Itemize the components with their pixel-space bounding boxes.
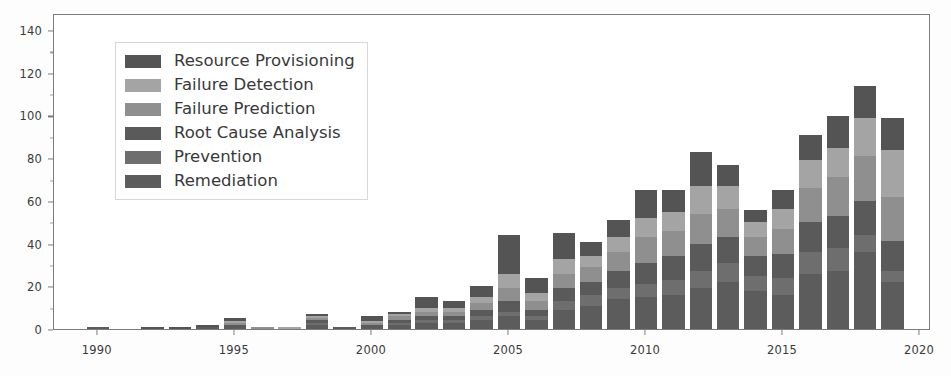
bar-segment-resource-provisioning[interactable] [607,220,629,237]
bar-segment-remediation[interactable] [87,327,109,329]
bar-segment-failure-prediction[interactable] [662,231,684,257]
bar-segment-resource-provisioning[interactable] [799,135,821,161]
bar-segment-failure-prediction[interactable] [553,274,575,289]
bar-segment-failure-detection[interactable] [635,218,657,237]
bar-2002[interactable] [415,297,437,329]
legend-item[interactable]: Failure Detection [125,74,355,96]
bar-segment-root-cause-analysis[interactable] [881,241,903,271]
bar-segment-remediation[interactable] [662,295,684,329]
bar-segment-resource-provisioning[interactable] [141,327,163,329]
bar-segment-remediation[interactable] [799,274,821,330]
legend-item[interactable]: Root Cause Analysis [125,122,355,144]
bar-segment-remediation[interactable] [854,252,876,329]
bar-2013[interactable] [717,165,739,329]
bar-segment-remediation[interactable] [333,327,355,329]
bar-segment-root-cause-analysis[interactable] [690,244,712,272]
bar-segment-prevention[interactable] [827,248,849,271]
bar-segment-failure-detection[interactable] [662,212,684,231]
bar-segment-failure-detection[interactable] [690,186,712,214]
bar-segment-failure-prediction[interactable] [635,237,657,263]
bar-segment-remediation[interactable] [498,316,520,329]
bar-segment-remediation[interactable] [690,288,712,329]
bar-segment-failure-detection[interactable] [772,209,794,228]
bar-segment-prevention[interactable] [635,284,657,297]
bar-segment-root-cause-analysis[interactable] [717,237,739,263]
bar-segment-resource-provisioning[interactable] [854,86,876,118]
bar-2009[interactable] [607,220,629,329]
bar-segment-resource-provisioning[interactable] [525,278,547,293]
bar-segment-remediation[interactable] [388,325,410,329]
bar-segment-resource-provisioning[interactable] [881,118,903,150]
bar-1990[interactable] [87,327,109,329]
bar-segment-prevention[interactable] [553,301,575,310]
bar-segment-prevention[interactable] [662,280,684,295]
legend-item[interactable]: Resource Provisioning [125,50,355,72]
bar-1998[interactable] [306,314,328,329]
bar-segment-resource-provisioning[interactable] [635,190,657,218]
bar-segment-remediation[interactable] [580,306,602,329]
bar-segment-prevention[interactable] [772,278,794,295]
bar-segment-root-cause-analysis[interactable] [799,222,821,252]
bar-segment-remediation[interactable] [361,327,383,329]
bar-segment-resource-provisioning[interactable] [498,235,520,273]
bar-1999[interactable] [333,327,355,329]
bar-segment-resource-provisioning[interactable] [744,210,766,223]
bar-1996[interactable] [251,327,273,329]
bar-segment-failure-detection[interactable] [553,259,575,274]
bar-segment-remediation[interactable] [881,282,903,329]
legend-item[interactable]: Prevention [125,146,355,168]
bar-segment-failure-prediction[interactable] [744,237,766,256]
bar-2005[interactable] [498,235,520,329]
bar-segment-failure-prediction[interactable] [251,327,273,329]
bar-1994[interactable] [196,325,218,329]
bar-segment-failure-detection[interactable] [827,148,849,178]
bar-2016[interactable] [799,135,821,329]
bar-segment-failure-prediction[interactable] [498,288,520,301]
bar-segment-prevention[interactable] [717,263,739,282]
bar-segment-failure-detection[interactable] [799,160,821,188]
bar-segment-failure-detection[interactable] [854,118,876,156]
bar-segment-failure-prediction[interactable] [607,252,629,271]
bar-segment-prevention[interactable] [744,276,766,291]
bar-segment-root-cause-analysis[interactable] [854,201,876,235]
bar-segment-failure-detection[interactable] [607,237,629,252]
bar-segment-remediation[interactable] [553,310,575,329]
bar-2014[interactable] [744,209,766,329]
bar-segment-resource-provisioning[interactable] [553,233,575,259]
bar-segment-remediation[interactable] [306,325,328,329]
bar-segment-failure-prediction[interactable] [881,197,903,242]
bar-segment-resource-provisioning[interactable] [662,190,684,211]
bar-2006[interactable] [525,278,547,329]
bar-segment-prevention[interactable] [799,252,821,273]
bar-2019[interactable] [881,118,903,329]
bar-2007[interactable] [553,233,575,329]
bar-segment-prevention[interactable] [580,295,602,306]
bar-segment-root-cause-analysis[interactable] [498,301,520,312]
bar-segment-remediation[interactable] [607,299,629,329]
bar-segment-root-cause-analysis[interactable] [580,282,602,295]
legend-item[interactable]: Failure Prediction [125,98,355,120]
bar-2008[interactable] [580,241,602,329]
bar-2001[interactable] [388,312,410,329]
bar-segment-failure-prediction[interactable] [525,301,547,310]
bar-segment-prevention[interactable] [881,271,903,282]
bar-segment-resource-provisioning[interactable] [580,242,602,257]
bar-2004[interactable] [470,286,492,329]
bar-segment-failure-prediction[interactable] [854,156,876,201]
bar-segment-remediation[interactable] [744,291,766,329]
bar-segment-remediation[interactable] [443,323,465,329]
bar-2000[interactable] [361,316,383,329]
bar-1993[interactable] [169,327,191,329]
bar-segment-remediation[interactable] [717,282,739,329]
bar-segment-resource-provisioning[interactable] [169,327,191,329]
bar-segment-resource-provisioning[interactable] [772,190,794,209]
bar-segment-failure-prediction[interactable] [717,209,739,237]
bar-segment-remediation[interactable] [415,323,437,329]
bar-2017[interactable] [827,116,849,330]
bar-2015[interactable] [772,190,794,329]
bar-segment-failure-detection[interactable] [717,186,739,209]
bar-segment-prevention[interactable] [607,288,629,299]
bar-segment-remediation[interactable] [635,297,657,329]
bar-segment-failure-detection[interactable] [580,256,602,267]
bar-2011[interactable] [662,190,684,329]
